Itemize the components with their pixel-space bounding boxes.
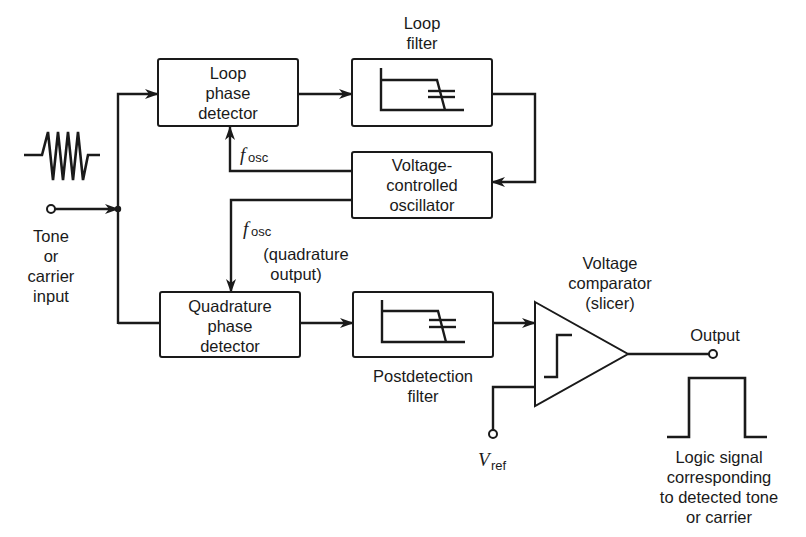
fosc-quadrature-label: f osc (quadrature output) [243, 218, 349, 283]
svg-text:to detected tone: to detected tone [660, 488, 778, 506]
svg-text:ref: ref [491, 458, 507, 473]
loop-filter-block [352, 59, 492, 126]
svg-text:Quadrature: Quadrature [188, 297, 271, 315]
svg-text:osc: osc [251, 224, 272, 239]
svg-text:Voltage: Voltage [582, 254, 637, 272]
svg-text:Postdetection: Postdetection [373, 367, 473, 385]
svg-text:Logic signal: Logic signal [675, 448, 762, 466]
svg-text:Loop: Loop [210, 64, 247, 82]
postdetection-filter-block [353, 292, 493, 357]
quadrature-phase-detector-block: Quadrature phase detector [160, 292, 300, 357]
vref-terminal: V ref [478, 430, 507, 473]
svg-text:Tone: Tone [33, 227, 69, 245]
svg-text:(slicer): (slicer) [585, 294, 635, 312]
svg-text:phase: phase [206, 84, 251, 102]
svg-text:phase: phase [208, 317, 253, 335]
svg-text:detector: detector [198, 104, 258, 122]
svg-text:or: or [44, 247, 59, 265]
svg-text:Loop: Loop [404, 14, 441, 32]
svg-text:oscillator: oscillator [389, 196, 455, 214]
svg-text:f: f [243, 218, 251, 239]
line-loop-filter-to-vco [492, 94, 535, 182]
svg-text:osc: osc [248, 150, 269, 165]
svg-text:controlled: controlled [386, 176, 458, 194]
fosc-label: f osc [240, 144, 269, 165]
postdetection-filter-label: Postdetection filter [373, 367, 473, 405]
line-vref-to-comparator [493, 387, 535, 436]
comparator-block [535, 302, 628, 406]
input-label: Tone or carrier input [28, 227, 75, 305]
svg-text:corresponding: corresponding [667, 468, 772, 486]
loop-filter-label: Loop filter [404, 14, 441, 52]
svg-text:Output: Output [690, 326, 740, 344]
svg-text:input: input [33, 287, 69, 305]
comparator-label: Voltage comparator (slicer) [568, 254, 652, 312]
svg-text:V: V [478, 449, 492, 470]
svg-text:detector: detector [200, 337, 260, 355]
svg-text:carrier: carrier [28, 267, 75, 285]
logic-pulse-icon [667, 378, 767, 437]
vco-block: Voltage- controlled oscillator [352, 152, 492, 218]
input-burst-waveform-icon [24, 132, 100, 180]
loop-phase-detector-block: Loop phase detector [158, 59, 298, 126]
logic-signal-label: Logic signal corresponding to detected t… [660, 448, 778, 526]
svg-text:f: f [240, 144, 248, 165]
input-terminal [47, 205, 121, 213]
svg-text:comparator: comparator [568, 274, 652, 292]
tone-detector-diagram: Tone or carrier input Loop phase detecto… [0, 0, 806, 537]
svg-text:output): output) [270, 265, 321, 283]
svg-text:(quadrature: (quadrature [263, 245, 348, 263]
svg-text:filter: filter [406, 34, 438, 52]
svg-text:filter: filter [407, 387, 439, 405]
line-junction-to-loop-pd [118, 94, 158, 324]
svg-text:or carrier: or carrier [686, 508, 753, 526]
svg-text:Voltage-: Voltage- [392, 156, 453, 174]
